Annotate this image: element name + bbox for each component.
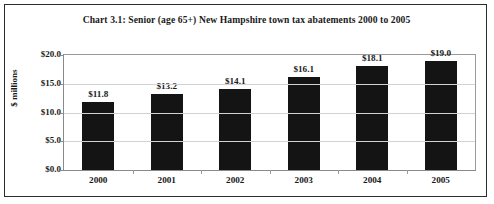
x-axis-tick — [201, 170, 202, 174]
bar[interactable] — [288, 77, 320, 170]
x-axis-tick — [133, 170, 134, 174]
y-axis-tick — [60, 84, 64, 85]
x-axis-tick — [270, 170, 271, 174]
y-axis-title: $ millions — [9, 58, 19, 118]
bar[interactable] — [425, 61, 457, 170]
chart-title: Chart 3.1: Senior (age 65+) New Hampshir… — [5, 14, 487, 25]
x-axis-tick-label: 2003 — [270, 175, 339, 185]
bar[interactable] — [356, 66, 388, 170]
x-axis-tick-label: 2002 — [201, 175, 270, 185]
bar-value-label: $19.0 — [407, 48, 476, 58]
bar-value-label: $16.1 — [270, 64, 339, 74]
plot-area: $11.8$13.2$14.1$16.1$18.1$19.0 — [63, 54, 476, 171]
y-axis-tick-label: $10.0 — [21, 108, 61, 117]
x-axis-tick — [338, 170, 339, 174]
y-axis-tick — [60, 170, 64, 171]
y-axis-tick — [60, 55, 64, 56]
x-axis-tick-label: 2005 — [407, 175, 476, 185]
chart-figure: Chart 3.1: Senior (age 65+) New Hampshir… — [4, 4, 487, 197]
y-axis-tick — [60, 113, 64, 114]
x-axis-tick-label: 2001 — [133, 175, 202, 185]
bar[interactable] — [151, 94, 183, 170]
bar-value-label: $13.2 — [133, 81, 202, 91]
y-axis-tick-label: $0.0 — [21, 165, 61, 174]
y-axis-tick-label: $5.0 — [21, 136, 61, 145]
y-axis-tick-label: $20.0 — [21, 50, 61, 59]
y-axis-tick — [60, 141, 64, 142]
bar-value-label: $18.1 — [338, 53, 407, 63]
y-axis-tick-label: $15.0 — [21, 79, 61, 88]
gridline — [64, 113, 475, 114]
x-axis-tick-label: 2000 — [64, 175, 133, 185]
bar[interactable] — [219, 89, 251, 170]
x-axis-tick-label: 2004 — [338, 175, 407, 185]
gridline — [64, 141, 475, 142]
y-axis-tick-labels: $0.0$5.0$10.0$15.0$20.0 — [21, 54, 61, 173]
x-axis-tick — [407, 170, 408, 174]
gridline — [64, 84, 475, 85]
x-axis-tick-labels: 200020012002200320042005 — [64, 175, 475, 189]
bar-value-label: $11.8 — [64, 89, 133, 99]
